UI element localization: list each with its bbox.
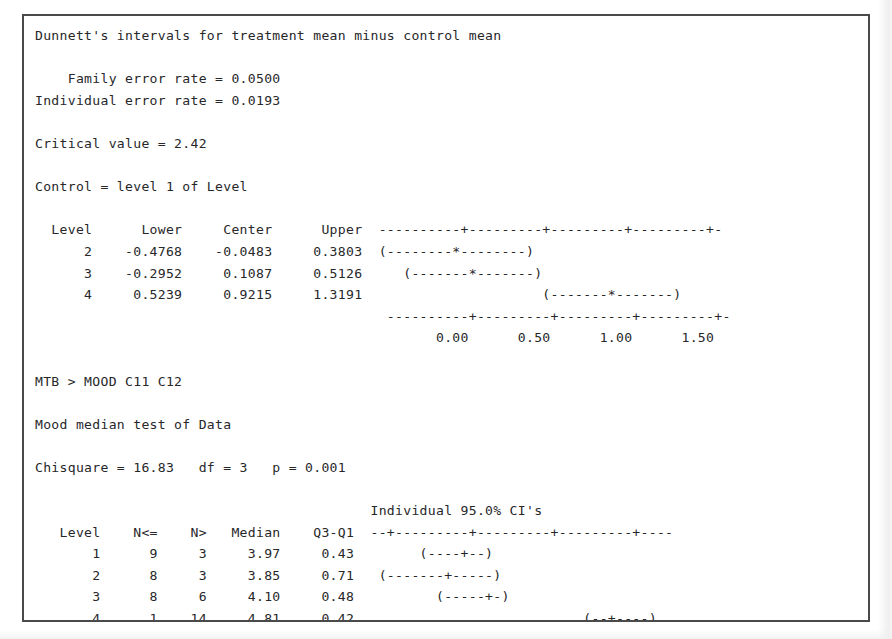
minitab-session-window: Dunnett's intervals for treatment mean m… [22,14,870,622]
scan-edge-shading [878,0,892,639]
session-output-text: Dunnett's intervals for treatment mean m… [35,25,731,622]
scan-bottom-shading [0,629,892,639]
page-canvas: Dunnett's intervals for treatment mean m… [0,0,892,639]
